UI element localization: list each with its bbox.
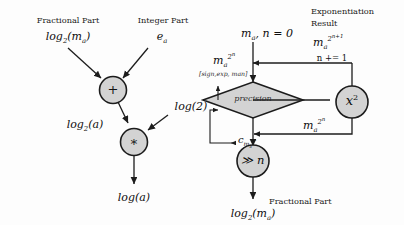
right-output-value: log2(ma)	[231, 208, 276, 222]
left-intermediate-value: log2(a)	[67, 119, 104, 133]
left-output-value: log(a)	[118, 192, 150, 203]
format-annotation: [sign,exp, man]	[199, 71, 247, 77]
left-integer-part-caption: Integer Part	[138, 16, 188, 24]
edge-add-to-mul	[118, 102, 128, 123]
count-value: cma2n	[238, 135, 256, 149]
exponentiation-result-caption-line1: Exponentiation	[311, 7, 374, 15]
left-fractional-part-caption: Fractional Part	[37, 16, 100, 24]
left-log2-constant: log(2)	[175, 101, 208, 112]
edge-count-feedback	[210, 110, 231, 143]
edge-int-to-add	[123, 48, 148, 78]
exponentiation-result-value: ma2n+1	[313, 34, 343, 51]
edge-log2-to-mul	[148, 115, 168, 130]
right-fractional-part-caption: Fractional Part	[269, 197, 332, 205]
loop-input-value: ma2n	[303, 117, 325, 134]
feedback-exponent-value: ma2n	[213, 52, 235, 69]
precision-label: precision	[234, 95, 271, 103]
increment-label: n += 1	[317, 54, 348, 63]
left-fractional-value: log2(ma)	[46, 31, 91, 45]
right-init-value: ma, n = 0	[241, 28, 293, 42]
add-operator-glyph: +	[108, 83, 119, 96]
figure-canvas: Fractional Part Integer Part log2(ma) ea…	[0, 0, 404, 225]
edge-frac-to-add	[68, 48, 101, 78]
multiply-operator-glyph: ∗	[130, 135, 139, 148]
shift-label: ≫ n	[241, 155, 264, 167]
square-label: x2	[346, 94, 358, 107]
left-integer-value: ea	[157, 31, 168, 45]
exponentiation-result-caption-line2: Result	[311, 19, 337, 27]
